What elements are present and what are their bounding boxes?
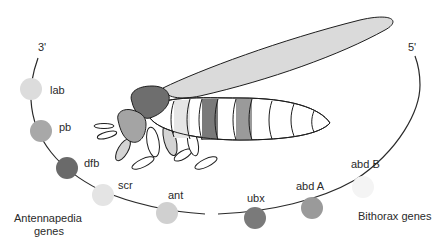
- three-prime-label: 3': [38, 41, 46, 53]
- antennapedia-label-line2: genes: [34, 225, 64, 237]
- gene-ant: ant: [156, 189, 183, 224]
- fly-wing: [163, 17, 393, 98]
- antennapedia-label-line1: Antennapedia: [14, 212, 83, 224]
- gene-ubx: ubx: [244, 192, 266, 229]
- bithorax-label: Bithorax genes: [358, 210, 432, 222]
- fly-abdomen: [150, 98, 330, 140]
- svg-text:lab: lab: [50, 84, 65, 96]
- gene-lab: lab: [20, 78, 65, 100]
- svg-text:abd B: abd B: [351, 158, 380, 170]
- five-prime-label: 5': [408, 41, 416, 53]
- svg-text:abd A: abd A: [296, 180, 325, 192]
- svg-text:scr: scr: [118, 179, 133, 191]
- gene-pb: pb: [30, 120, 71, 142]
- svg-text:ant: ant: [168, 189, 183, 201]
- svg-text:dfb: dfb: [84, 157, 99, 169]
- fly-head: [118, 109, 146, 142]
- hox-diagram: 3' 5': [0, 0, 444, 243]
- svg-text:ubx: ubx: [247, 192, 265, 204]
- gene-dfb: dfb: [56, 157, 99, 179]
- gene-abd-a: abd A: [296, 180, 325, 219]
- gene-abd-b: abd B: [351, 158, 380, 198]
- gene-scr: scr: [92, 179, 133, 206]
- svg-text:pb: pb: [59, 121, 71, 133]
